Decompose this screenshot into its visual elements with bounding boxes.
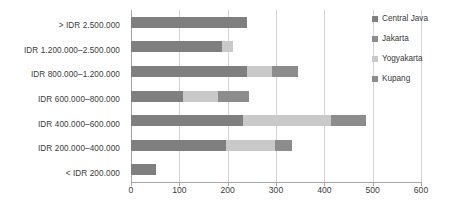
bar-segment [131, 140, 226, 151]
legend-label: Jakarta [382, 34, 409, 44]
x-tick-label: 400 [317, 185, 331, 195]
category-label: IDR 400.000–600.000 [0, 120, 120, 130]
x-tick-label: 600 [414, 185, 428, 195]
bar-segment [331, 115, 366, 126]
category-label: IDR 600.000–800.000 [0, 95, 120, 105]
category-label: IDR 1.200.000–2.500.000 [0, 46, 120, 56]
bar-segment [131, 41, 222, 52]
bar-segment [243, 115, 331, 126]
bar-segment [275, 140, 292, 151]
bar-segment [131, 164, 156, 175]
x-tick-label: 200 [220, 185, 234, 195]
gridline [324, 10, 325, 182]
legend-swatch-icon [372, 56, 378, 62]
legend-label: Kupang [382, 74, 410, 84]
bar-segment [183, 91, 218, 102]
x-tick-label: 300 [269, 185, 283, 195]
legend-swatch-icon [372, 76, 378, 82]
category-label: < IDR 200.000 [0, 169, 120, 179]
bar-segment [131, 91, 183, 102]
category-label: > IDR 2.500.000 [0, 21, 120, 31]
bar-segment [222, 41, 234, 52]
bar-chart: > IDR 2.500.000IDR 1.200.000–2.500.000ID… [0, 0, 454, 212]
legend-swatch-icon [372, 36, 378, 42]
legend-item[interactable]: Kupang [372, 73, 410, 84]
x-tick-label: 500 [365, 185, 379, 195]
category-label: IDR 200.000–400.000 [0, 144, 120, 154]
bar-segment [272, 66, 298, 77]
bar-segment [131, 66, 247, 77]
x-axis-tick-labels: 0100200300400500600 [131, 185, 431, 199]
bar-segment [218, 91, 249, 102]
bar-segment [226, 140, 275, 151]
chart-legend: Central JavaJakartaYogyakartaKupang [372, 13, 454, 91]
bar-segment [247, 66, 272, 77]
legend-item[interactable]: Yogyakarta [372, 53, 423, 64]
legend-label: Central Java [382, 14, 428, 24]
category-label: IDR 800.000–1.200.000 [0, 70, 120, 80]
x-tick-label: 0 [129, 185, 134, 195]
legend-label: Yogyakarta [382, 54, 423, 64]
legend-swatch-icon [372, 16, 378, 22]
category-axis-labels: > IDR 2.500.000IDR 1.200.000–2.500.000ID… [0, 14, 124, 174]
legend-item[interactable]: Jakarta [372, 33, 409, 44]
bar-segment [131, 17, 247, 28]
legend-item[interactable]: Central Java [372, 13, 428, 24]
x-tick-label: 100 [172, 185, 186, 195]
bar-segment [131, 115, 243, 126]
gridline [276, 10, 277, 182]
